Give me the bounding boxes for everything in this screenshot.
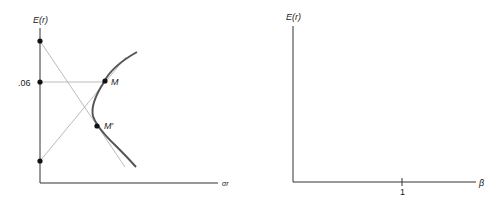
right-chart: E(r) 1 β bbox=[286, 12, 484, 197]
right-x-axis-label: β bbox=[478, 178, 484, 188]
x-tick-1-label: 1 bbox=[400, 187, 405, 197]
intercept-dot-lower bbox=[37, 158, 42, 163]
intercept-dot-06 bbox=[37, 79, 42, 84]
point-m-label: M bbox=[111, 77, 119, 87]
point-m-prime-label: M′ bbox=[104, 121, 113, 131]
left-x-axis-label: σr bbox=[222, 180, 229, 187]
efficient-frontier-curve bbox=[92, 52, 137, 167]
left-y-axis-label: E(r) bbox=[33, 15, 48, 25]
tangent-line-upper bbox=[40, 41, 125, 167]
right-y-axis-label: E(r) bbox=[286, 12, 301, 22]
diagram-canvas: E(r) .06 M M′ σr E(r) 1 β bbox=[0, 0, 499, 202]
left-chart: E(r) .06 M M′ σr bbox=[18, 15, 229, 187]
point-m-dot bbox=[102, 78, 107, 83]
y-tick-06: .06 bbox=[18, 78, 31, 88]
point-m-prime-dot bbox=[94, 123, 99, 128]
intercept-dot-upper bbox=[37, 38, 42, 43]
tangent-line-lower bbox=[40, 57, 126, 161]
